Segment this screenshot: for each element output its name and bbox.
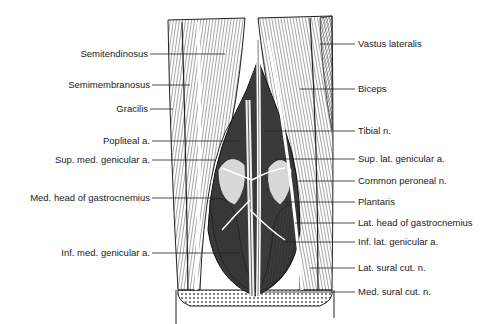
label-med-head-gastrocnemius: Med. head of gastrocnemius: [30, 192, 150, 203]
label-semimembranosus: Semimembranosus: [68, 79, 150, 90]
label-inf-lat-genicular-artery: Inf. lat. genicular a.: [358, 236, 438, 247]
label-semitendinosus: Semitendinosus: [80, 48, 148, 59]
label-sup-lat-genicular-artery: Sup. lat. genicular a.: [358, 153, 445, 164]
label-plantaris: Plantaris: [358, 196, 395, 207]
label-gracilis: Gracilis: [116, 103, 148, 114]
label-popliteal-artery: Popliteal a.: [103, 135, 150, 146]
label-lat-sural-cut-nerve: Lat. sural cut. n.: [358, 262, 426, 273]
label-vastus-lateralis: Vastus lateralis: [358, 38, 422, 49]
label-biceps: Biceps: [358, 83, 387, 94]
label-sup-med-genicular-artery: Sup. med. genicular a.: [55, 154, 150, 165]
label-lat-head-gastrocnemius: Lat. head of gastrocnemius: [358, 217, 473, 228]
label-common-peroneal-nerve: Common peroneal n.: [358, 175, 447, 186]
label-tibial-nerve: Tibial n.: [358, 125, 391, 136]
label-inf-med-genicular-artery: Inf. med. genicular a.: [61, 247, 150, 258]
label-med-sural-cut-nerve: Med. sural cut. n.: [358, 286, 431, 297]
